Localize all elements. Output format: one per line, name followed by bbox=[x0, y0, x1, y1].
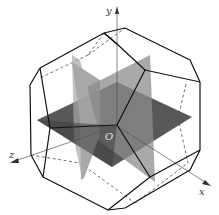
y-axis-arrow-icon bbox=[115, 6, 119, 14]
plane-xy bbox=[87, 55, 155, 182]
origin-label: O bbox=[105, 131, 113, 142]
x-axis-label: x bbox=[199, 186, 205, 197]
z-axis-label: z bbox=[8, 149, 15, 160]
y-axis-label: y bbox=[105, 5, 112, 16]
truncated-octahedron-diagram: y z x O bbox=[0, 0, 219, 215]
